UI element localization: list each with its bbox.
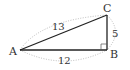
- side-label-ab: 12: [58, 55, 71, 66]
- right-angle-mark: [101, 44, 107, 50]
- side-label-ac: 13: [52, 21, 65, 32]
- side-label-bc: 5: [112, 28, 118, 39]
- triangle-diagram: A B C 13 5 12: [0, 0, 130, 70]
- vertex-label-b: B: [110, 48, 118, 61]
- vertex-label-a: A: [8, 45, 18, 58]
- vertex-label-c: C: [103, 2, 111, 15]
